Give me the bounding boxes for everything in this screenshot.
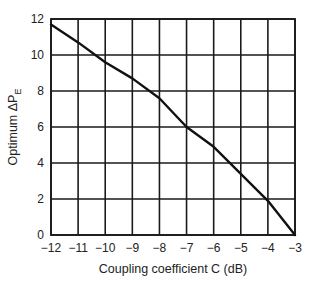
x-tick-label: −5 bbox=[234, 241, 248, 255]
x-tick-label: −3 bbox=[288, 241, 302, 255]
x-tick-label: −6 bbox=[207, 241, 221, 255]
chart: −12−11−10−9−8−7−6−5−4−3 024681012 Coupli… bbox=[0, 0, 317, 292]
y-tick-label: 4 bbox=[37, 156, 44, 170]
data-curve bbox=[51, 24, 295, 235]
x-tick-label: −9 bbox=[125, 241, 139, 255]
grid-lines bbox=[51, 19, 295, 235]
x-axis-label: Coupling coefficient C (dB) bbox=[99, 262, 247, 276]
x-tick-label: −10 bbox=[95, 241, 116, 255]
y-axis-label-subscript: E bbox=[13, 89, 23, 95]
x-tick-label: −4 bbox=[261, 241, 275, 255]
x-tick-label: −11 bbox=[68, 241, 88, 255]
x-tick-label: −7 bbox=[180, 241, 194, 255]
y-tick-label: 0 bbox=[37, 228, 44, 242]
y-axis-label-main: Optimum ΔP bbox=[6, 95, 20, 166]
x-tick-labels: −12−11−10−9−8−7−6−5−4−3 bbox=[41, 241, 302, 255]
x-tick-label: −12 bbox=[41, 241, 62, 255]
y-tick-label: 6 bbox=[37, 120, 44, 134]
y-tick-label: 10 bbox=[31, 48, 45, 62]
y-axis-label: Optimum ΔPE bbox=[6, 89, 23, 166]
y-tick-label: 12 bbox=[31, 12, 45, 26]
y-tick-labels: 024681012 bbox=[31, 12, 45, 242]
y-tick-label: 2 bbox=[37, 192, 44, 206]
y-tick-label: 8 bbox=[37, 84, 44, 98]
x-tick-label: −8 bbox=[153, 241, 167, 255]
